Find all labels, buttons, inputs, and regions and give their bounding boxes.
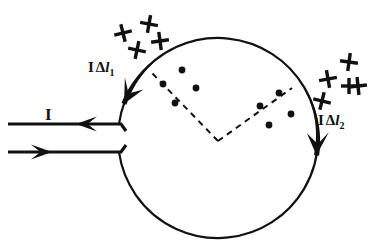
field-cross-left-2-bar-v <box>147 15 150 33</box>
field-cross-left-3-bar-v <box>159 32 162 50</box>
field-dot-5 <box>276 90 283 97</box>
element-1-delta-symbol: Δ <box>96 59 105 75</box>
loop-circle-group <box>119 38 318 238</box>
field-cross-left-1-bar-v <box>121 24 125 41</box>
field-cross-right-1 <box>318 69 339 90</box>
element-1-subscript: 1 <box>109 67 114 78</box>
field-dot-4 <box>172 100 179 107</box>
current-element-1-label: IΔl1 <box>88 60 114 78</box>
field-cross-right-1-bar-v <box>326 70 329 88</box>
field-cross-right-3-bar-v <box>357 77 359 95</box>
current-element-arrows-group <box>122 59 329 156</box>
field-dot-7 <box>288 111 295 118</box>
element-2-delta-symbol: Δ <box>326 112 335 128</box>
field-dots-group <box>160 67 295 129</box>
field-dot-2 <box>160 81 167 88</box>
field-cross-right-5 <box>341 78 357 94</box>
figure-root: I IΔl1 IΔl2 <box>0 0 383 250</box>
field-dot-6 <box>257 103 264 110</box>
dashed-radius-group <box>152 73 292 141</box>
current-label-I: I <box>45 106 52 123</box>
field-cross-right-4-bar-v <box>320 92 324 109</box>
current-element-2-label: IΔl2 <box>318 113 344 131</box>
field-cross-right-2-bar-v <box>348 53 351 71</box>
field-cross-left-4 <box>126 39 147 60</box>
field-dot-1 <box>179 67 186 74</box>
lead-connector-upper <box>114 124 126 131</box>
field-cross-left-1 <box>112 22 134 44</box>
loop-circle <box>119 38 318 238</box>
element-1-current-symbol: I <box>88 59 94 75</box>
radius-to-element-2 <box>218 88 292 141</box>
field-cross-left-2 <box>139 14 160 35</box>
element-2-current-symbol: I <box>318 112 324 128</box>
field-cross-right-2 <box>339 52 359 72</box>
field-dot-3 <box>193 85 200 92</box>
lead-connector-lower <box>114 145 126 152</box>
field-cross-left-3 <box>150 31 170 51</box>
lead-wires-group <box>8 117 126 160</box>
field-dot-8 <box>266 122 273 129</box>
field-cross-left-4-bar-v <box>135 41 139 59</box>
element-2-subscript: 2 <box>339 120 344 131</box>
